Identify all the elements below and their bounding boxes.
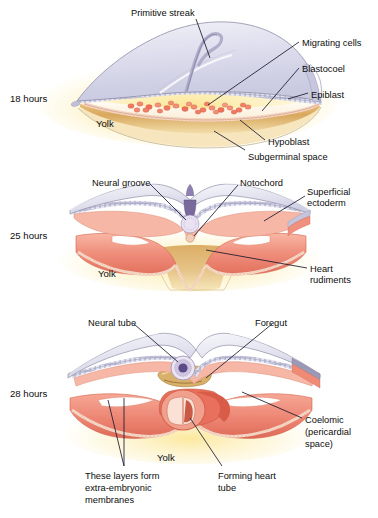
label-epiblast: Epiblast [311,90,344,101]
label-extraembryonic-line2: extra-embryonic [85,483,152,494]
label-hypoblast: Hypoblast [268,137,309,148]
label-superficial-ectoderm-line2: ectoderm [307,198,346,209]
label-primitive-streak: Primitive streak [131,8,195,19]
label-neural-tube: Neural tube [88,318,136,329]
label-blastocoel: Blastocoel [302,64,345,75]
neural-tube-lumen [178,363,187,372]
yolk-label-25h: Yolk [98,268,116,279]
label-heart-rudiments-line1: Heart [310,264,333,275]
label-forming-heart-tube-line1: Forming heart [218,471,276,482]
stage-label-28h: 28 hours [10,388,47,399]
label-extraembryonic-line3: membranes [85,495,134,506]
label-heart-rudiments-line2: rudiments [310,275,351,286]
label-notochord: Notochord [240,178,283,189]
label-migrating-cells: Migrating cells [302,38,361,49]
label-neural-groove: Neural groove [92,178,150,189]
stage-label-18h: 18 hours [10,93,47,104]
label-foregut: Foregut [255,318,287,329]
label-subgerminal-space: Subgerminal space [248,152,328,163]
label-coelomic-line2: (pericardial [305,427,351,438]
label-coelomic-line3: space) [305,439,333,450]
embryo-development-figure: 18 hours Yolk Primitive streak Migrating… [0,0,378,518]
notochord [186,234,194,242]
yolk-label-18h: Yolk [96,118,114,129]
label-superficial-ectoderm-line1: Superficial [307,187,350,198]
label-extraembryonic-line1: These layers form [85,471,159,482]
stage-label-25h: 25 hours [10,230,47,241]
yolk-label-28h: Yolk [157,452,175,463]
label-forming-heart-tube-line2: tube [218,483,236,494]
label-coelomic-line1: Coelomic [305,415,344,426]
